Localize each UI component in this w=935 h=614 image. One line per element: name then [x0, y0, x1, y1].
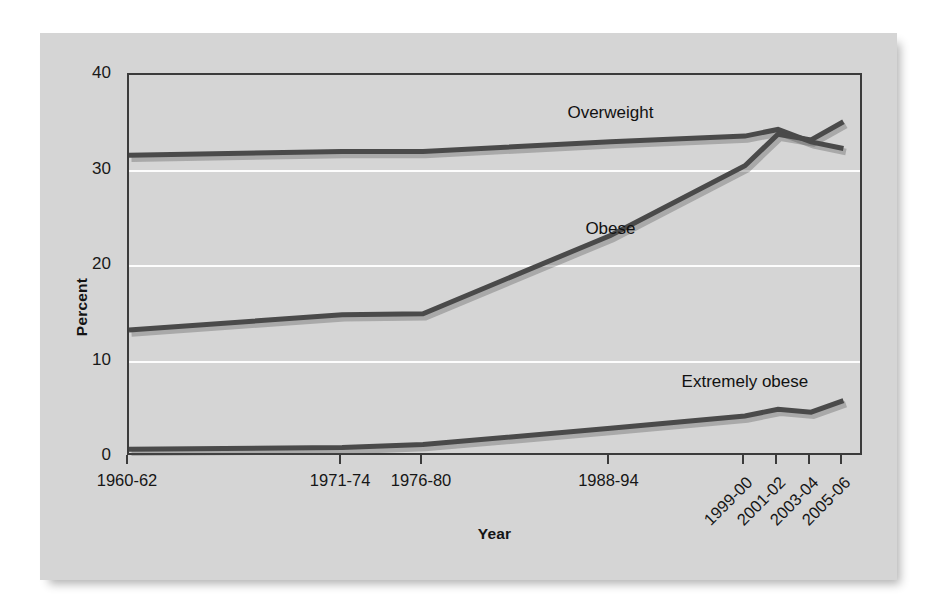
x-tick: [742, 455, 744, 464]
y-tick-label: 10: [51, 350, 111, 370]
x-tick: [840, 455, 842, 464]
x-tick-label: 1976-80: [391, 471, 452, 490]
series-label-obese: Obese: [585, 219, 635, 239]
series-lines: [129, 75, 864, 457]
x-tick-label: 1960-62: [97, 471, 158, 490]
y-tick-label: 20: [51, 254, 111, 274]
chart-figure-panel: 010203040 Percent OverweightObeseExtreme…: [40, 33, 897, 580]
y-tick-label: 30: [51, 159, 111, 179]
y-axis-title: Percent: [73, 277, 91, 335]
x-tick: [420, 455, 422, 464]
x-axis: 1960-621971-741976-801988-941999-002001-…: [127, 455, 862, 575]
y-tick-label: 40: [51, 63, 111, 83]
x-tick-label: 1971-74: [310, 471, 371, 490]
x-tick: [808, 455, 810, 464]
x-tick: [339, 455, 341, 464]
x-axis-title: Year: [127, 525, 862, 543]
series-label-overweight: Overweight: [567, 103, 653, 123]
x-tick: [775, 455, 777, 464]
series-label-extremely-obese: Extremely obese: [682, 372, 809, 392]
plot-area: OverweightObeseExtremely obese: [127, 73, 862, 455]
y-tick-label: 0: [51, 445, 111, 465]
x-tick: [607, 455, 609, 464]
series-line-shadow: [132, 404, 846, 453]
x-tick-label: 1988-94: [578, 471, 639, 490]
x-tick: [126, 455, 128, 464]
